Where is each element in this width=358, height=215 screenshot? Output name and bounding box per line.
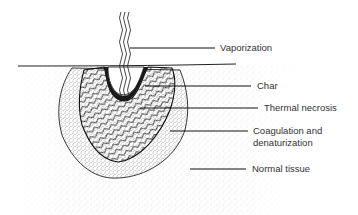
label-vaporization: Vaporization xyxy=(220,42,272,53)
laser-tissue-diagram: Vaporization Char Thermal necrosis Coagu… xyxy=(0,0,358,215)
label-denaturization: denaturization xyxy=(253,137,313,148)
label-normal-tissue: Normal tissue xyxy=(252,163,310,174)
label-coagulation: Coagulation and xyxy=(253,125,322,136)
laser-beam xyxy=(120,12,131,96)
label-char: Char xyxy=(257,80,278,91)
label-thermal-necrosis: Thermal necrosis xyxy=(264,102,337,113)
